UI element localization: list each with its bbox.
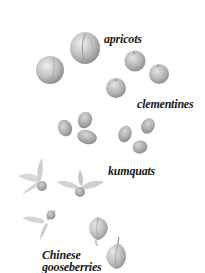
clementine-icon <box>149 64 169 84</box>
gooseberry-with-husk-icon <box>57 170 104 197</box>
kumquat-icon <box>56 118 75 139</box>
gooseberry-with-husk-icon <box>18 158 47 194</box>
chinese-gooseberries-label: Chinese gooseberries <box>42 249 102 273</box>
chinese-gooseberries-label-line2: gooseberries <box>42 261 102 273</box>
clementine-group <box>106 51 169 99</box>
fruit-drawing <box>0 0 205 273</box>
kumquat-group <box>56 110 158 155</box>
kumquat-icon <box>138 116 157 136</box>
clementines-label: clementines <box>137 99 193 110</box>
apricot-group <box>36 32 100 84</box>
fruit-illustration: apricots clementines kumquats Chinese go… <box>0 0 205 273</box>
kumquat-icon <box>76 128 99 147</box>
apricot-icon <box>70 32 100 64</box>
kumquats-label: kumquats <box>108 166 155 177</box>
apricots-label: apricots <box>104 34 142 45</box>
kumquat-icon <box>116 124 134 144</box>
kumquat-icon <box>76 110 95 131</box>
clementine-icon <box>125 51 146 72</box>
apricot-icon <box>36 56 64 84</box>
gooseberry-lantern-icon <box>106 237 126 269</box>
kumquat-icon <box>131 139 148 154</box>
gooseberry-with-husk-icon <box>22 210 56 240</box>
gooseberry-lantern-icon <box>89 217 108 246</box>
clementine-icon <box>106 78 126 98</box>
